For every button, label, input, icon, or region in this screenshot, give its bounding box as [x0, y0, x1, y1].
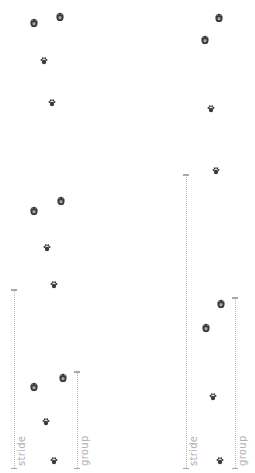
- left-paw-print-icon: [30, 17, 39, 28]
- left-paw-print-icon: [48, 99, 56, 107]
- right-paw-print-icon: [215, 12, 224, 23]
- left-group-bar: [77, 372, 78, 468]
- left-paw-print-icon: [42, 418, 50, 426]
- right-stride-bar: [186, 175, 187, 468]
- left-paw-print-icon: [40, 57, 48, 65]
- left-paw-print-icon: [30, 205, 39, 216]
- right-paw-print-icon: [202, 322, 211, 333]
- right-paw-print-icon: [216, 457, 224, 465]
- left-stride-label: stride: [16, 436, 27, 466]
- right-paw-print-icon: [212, 167, 220, 175]
- left-paw-print-icon: [59, 372, 68, 383]
- left-paw-print-icon: [57, 195, 66, 206]
- left-paw-print-icon: [43, 244, 51, 252]
- left-paw-print-icon: [50, 457, 58, 465]
- left-paw-print-icon: [56, 11, 65, 22]
- right-group-label: group: [237, 435, 248, 466]
- right-stride-label: stride: [188, 436, 199, 466]
- left-group-label: group: [79, 435, 90, 466]
- right-paw-print-icon: [209, 393, 217, 401]
- right-paw-print-icon: [217, 298, 226, 309]
- left-paw-print-icon: [30, 381, 39, 392]
- left-stride-bar: [14, 290, 15, 468]
- left-paw-print-icon: [50, 281, 58, 289]
- right-paw-print-icon: [201, 34, 210, 45]
- right-paw-print-icon: [207, 105, 215, 113]
- right-group-bar: [235, 298, 236, 468]
